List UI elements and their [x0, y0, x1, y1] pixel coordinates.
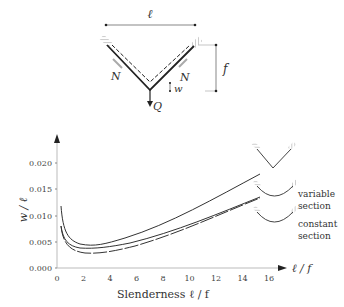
legend-variable-label-2: section	[298, 201, 331, 211]
x-tick: 16	[264, 274, 274, 283]
force-label-left: N	[110, 70, 121, 83]
load-label: Q	[153, 100, 162, 113]
structure-diagram: ℓ N N Q w f	[100, 7, 230, 113]
legend-constant-label: constant	[298, 219, 338, 229]
x-arrow-label: ℓ / f	[292, 262, 313, 275]
legend-variable-label: variable	[297, 189, 335, 199]
y-tick: 0.010	[29, 212, 52, 221]
legend: variable section constant section	[252, 142, 338, 241]
y-axis-arrow-icon	[54, 134, 60, 143]
y-axis-label: w / ℓ	[17, 197, 30, 222]
span-label: ℓ	[148, 7, 153, 21]
x-tick: 0	[54, 274, 59, 283]
x-axis-arrow-icon	[278, 265, 287, 271]
legend-v-arch-icon	[252, 142, 296, 168]
x-tick: 12	[211, 274, 221, 283]
x-tick: 10	[184, 274, 194, 283]
x-axis-label: Slenderness ℓ / f	[117, 288, 210, 301]
figure: ℓ N N Q w f	[0, 0, 344, 307]
legend-variable-section-icon	[253, 180, 298, 196]
chart-axes: 0.000 0.005 0.010 0.015 0.020 0 2 4 6 8 …	[17, 134, 313, 301]
series-variable-section	[61, 197, 260, 248]
y-tick: 0.000	[29, 264, 52, 273]
x-tick: 8	[160, 274, 165, 283]
y-tick: 0.015	[29, 185, 52, 194]
legend-constant-label-2: section	[298, 231, 331, 241]
y-tick: 0.020	[29, 159, 52, 168]
y-tick: 0.005	[29, 238, 52, 247]
rise-label: f	[222, 62, 230, 76]
x-tick: 4	[107, 274, 112, 283]
y-ticks: 0.000 0.005 0.010 0.015 0.020	[29, 159, 57, 273]
legend-constant-section-icon	[253, 206, 298, 222]
x-ticks: 0 2 4 6 8 10 12 14 16	[54, 274, 274, 283]
chart-curves	[61, 174, 260, 253]
x-tick: 14	[237, 274, 247, 283]
left-support-icon	[100, 35, 113, 48]
x-tick: 2	[81, 274, 86, 283]
deflection-label: w	[174, 83, 183, 94]
x-tick: 6	[134, 274, 139, 283]
